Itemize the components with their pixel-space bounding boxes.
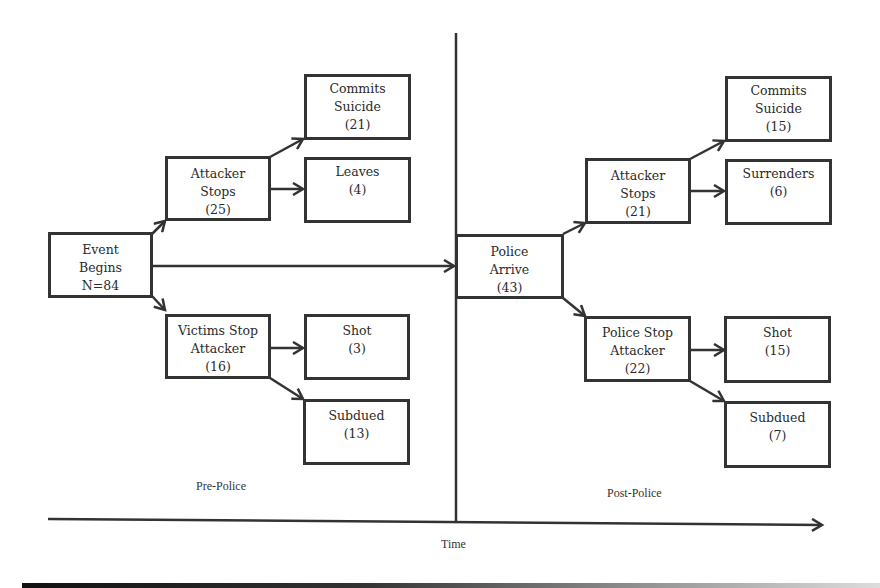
node-text: Police Stop bbox=[587, 324, 688, 342]
node-pre-subdued: Subdued (13) bbox=[303, 399, 410, 465]
node-post-attacker-stops: Attacker Stops (21) bbox=[585, 158, 691, 224]
bottom-divider-bar bbox=[22, 583, 880, 588]
node-post-commits-suicide: Commits Suicide (15) bbox=[725, 76, 832, 142]
node-text: Commits bbox=[728, 82, 829, 100]
node-text: Suicide bbox=[307, 98, 408, 116]
node-text: Stops bbox=[588, 185, 688, 203]
node-text: Suicide bbox=[728, 100, 829, 118]
node-text: Attacker bbox=[168, 340, 268, 358]
node-text: (16) bbox=[168, 358, 268, 376]
node-text: (7) bbox=[727, 427, 828, 445]
node-text: Attacker bbox=[587, 342, 688, 360]
phase-label-pre-police: Pre-Police bbox=[196, 479, 246, 494]
edge-police-stop-to-subdued bbox=[690, 381, 724, 401]
edge-police-to-attacker-stops bbox=[563, 223, 585, 234]
node-text: Shot bbox=[727, 324, 828, 342]
node-text: N=84 bbox=[51, 277, 150, 295]
node-text: (6) bbox=[728, 183, 829, 201]
node-text: (15) bbox=[727, 342, 828, 360]
node-post-shot: Shot (15) bbox=[724, 316, 831, 383]
node-police-stop-attacker: Police Stop Attacker (22) bbox=[584, 316, 691, 382]
node-text: (4) bbox=[307, 181, 408, 199]
node-text: Event bbox=[51, 241, 150, 259]
node-text: Subdued bbox=[306, 407, 407, 425]
node-text: Subdued bbox=[727, 409, 828, 427]
axis-label-time: Time bbox=[441, 537, 466, 552]
node-text: Attacker bbox=[168, 165, 268, 183]
edge-police-to-police-stop bbox=[563, 298, 585, 316]
edge-victims-to-subdued bbox=[270, 378, 303, 399]
node-text: (3) bbox=[307, 340, 407, 358]
node-text: (21) bbox=[588, 203, 688, 221]
node-event-begins: Event Begins N=84 bbox=[48, 232, 153, 298]
node-text: Leaves bbox=[307, 163, 408, 181]
node-text: (21) bbox=[307, 116, 408, 134]
node-text: Police bbox=[458, 243, 561, 261]
node-pre-shot: Shot (3) bbox=[304, 314, 410, 380]
node-text: Attacker bbox=[588, 167, 688, 185]
node-text: (25) bbox=[168, 201, 268, 219]
node-text: Arrive bbox=[458, 261, 561, 279]
edge-post-stops-to-suicide bbox=[690, 141, 724, 159]
node-pre-commits-suicide: Commits Suicide (21) bbox=[304, 74, 411, 140]
edge-event-to-victims-stop bbox=[152, 296, 165, 310]
edge-pre-stops-to-suicide bbox=[270, 139, 303, 157]
node-victims-stop-attacker: Victims Stop Attacker (16) bbox=[165, 314, 271, 379]
node-text: Commits bbox=[307, 80, 408, 98]
node-text: (13) bbox=[306, 425, 407, 443]
node-text: (15) bbox=[728, 118, 829, 136]
node-text: Victims Stop bbox=[168, 322, 268, 340]
node-pre-leaves: Leaves (4) bbox=[304, 157, 411, 223]
node-pre-attacker-stops: Attacker Stops (25) bbox=[165, 156, 271, 221]
node-text: Begins bbox=[51, 259, 150, 277]
node-text: Shot bbox=[307, 322, 407, 340]
node-post-surrenders: Surrenders (6) bbox=[725, 159, 832, 225]
edge-event-to-attacker-stops bbox=[152, 221, 165, 234]
node-post-subdued: Subdued (7) bbox=[724, 401, 831, 468]
node-police-arrive: Police Arrive (43) bbox=[455, 234, 564, 299]
phase-label-post-police: Post-Police bbox=[607, 486, 662, 501]
time-axis-arrow bbox=[48, 519, 822, 525]
node-text: (43) bbox=[458, 279, 561, 297]
node-text: (22) bbox=[587, 360, 688, 378]
node-text: Stops bbox=[168, 183, 268, 201]
node-text: Surrenders bbox=[728, 165, 829, 183]
